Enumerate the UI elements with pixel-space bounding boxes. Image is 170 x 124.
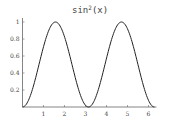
y-tick-label: 0.4 bbox=[10, 69, 20, 76]
x-tick-label: 5 bbox=[126, 110, 130, 117]
y-tick-label: 1 bbox=[16, 18, 20, 25]
y-tick-label: 0.8 bbox=[10, 35, 20, 42]
x-tick-label: 1 bbox=[42, 110, 46, 117]
x-tick-label: 2 bbox=[63, 110, 67, 117]
y-tick-label: 0.2 bbox=[10, 86, 20, 93]
y-tick-label: 0.6 bbox=[10, 52, 20, 59]
chart: sin2(x) 1234560.20.40.60.81 bbox=[0, 0, 170, 124]
x-tick-label: 6 bbox=[147, 110, 151, 117]
x-tick-label: 4 bbox=[105, 110, 109, 117]
chart-title: sin2(x) bbox=[72, 4, 108, 15]
data-line bbox=[23, 22, 155, 107]
x-tick-label: 3 bbox=[84, 110, 88, 117]
